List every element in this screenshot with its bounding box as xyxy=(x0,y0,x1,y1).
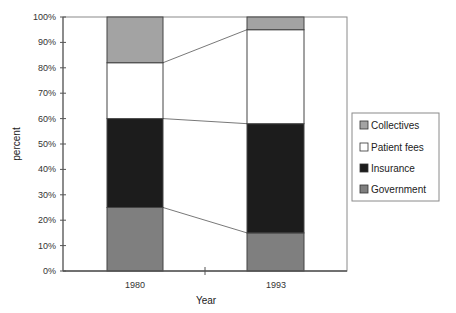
stacked-bar-chart: 0%10%20%30%40%50%60%70%80%90%100% 198019… xyxy=(0,0,456,313)
legend-label: Patient fees xyxy=(371,142,424,153)
bar-segment-collectives xyxy=(247,17,304,30)
y-axis-ticks: 0%10%20%30%40%50%60%70%80%90%100% xyxy=(33,12,66,276)
legend-swatch xyxy=(360,185,368,193)
legend-label: Government xyxy=(371,184,426,195)
y-tick-label: 70% xyxy=(38,88,56,98)
y-tick-label: 80% xyxy=(38,63,56,73)
legend: CollectivesPatient feesInsuranceGovernme… xyxy=(352,113,439,201)
legend-swatch xyxy=(360,121,368,129)
x-axis-labels: 19801993 xyxy=(125,280,286,290)
y-tick-label: 100% xyxy=(33,12,56,22)
x-axis-title: Year xyxy=(196,295,217,306)
y-tick-label: 50% xyxy=(38,139,56,149)
x-tick-label: 1993 xyxy=(266,280,286,290)
y-tick-label: 40% xyxy=(38,164,56,174)
y-tick-label: 0% xyxy=(43,266,56,276)
y-axis-title: percent xyxy=(11,127,22,161)
bar-segment-collectives xyxy=(107,17,163,63)
y-tick-label: 20% xyxy=(38,215,56,225)
legend-swatch xyxy=(360,143,368,151)
bar-segment-patient-fees xyxy=(247,30,304,124)
bar-segment-insurance xyxy=(247,124,304,233)
legend-label: Collectives xyxy=(371,120,419,131)
y-tick-label: 90% xyxy=(38,37,56,47)
legend-label: Insurance xyxy=(371,163,415,174)
legend-item-insurance: Insurance xyxy=(360,163,415,174)
y-tick-label: 60% xyxy=(38,114,56,124)
y-tick-label: 30% xyxy=(38,190,56,200)
bar-1993 xyxy=(247,17,304,271)
legend-swatch xyxy=(360,164,368,172)
bar-1980 xyxy=(107,17,163,271)
y-tick-label: 10% xyxy=(38,241,56,251)
bar-segment-insurance xyxy=(107,119,163,208)
bar-segment-patient-fees xyxy=(107,63,163,119)
bar-segment-government xyxy=(107,208,163,272)
bar-segment-government xyxy=(247,233,304,271)
x-tick-label: 1980 xyxy=(125,280,145,290)
